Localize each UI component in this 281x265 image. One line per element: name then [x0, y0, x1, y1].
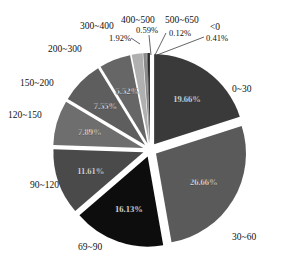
slice-percent-label: 11.61% [77, 166, 104, 176]
slice-category-label: 400~500 [121, 15, 155, 25]
slice-category-label: 0~30 [232, 84, 252, 94]
pie-chart: 19.66%0~3026.66%30~6016.13%69~9011.61%90… [0, 0, 281, 265]
leader-line [155, 33, 166, 55]
leader-line [131, 38, 140, 44]
slice-percent-label: 0.12% [169, 28, 191, 38]
pie-slices [53, 53, 246, 247]
slice-category-label: <0 [210, 22, 220, 32]
leader-line [149, 35, 151, 55]
slice-percent-label: 19.66% [173, 94, 201, 104]
slice-percent-label: 0.59% [136, 25, 158, 35]
slice-percent-label: 1.92% [109, 33, 131, 43]
slice-category-label: 200~300 [48, 44, 82, 54]
slice-category-label: 120~150 [8, 110, 42, 120]
slice-category-label: 30~60 [232, 232, 256, 242]
slice-percent-label: 0.41% [206, 33, 228, 43]
slice-percent-label: 16.13% [115, 204, 143, 214]
slice-category-label: 150~200 [20, 78, 54, 88]
slice-percent-label: 7.55% [94, 101, 117, 111]
slice-percent-label: 7.89% [78, 127, 101, 137]
slice-percent-label: 5.52% [116, 86, 139, 96]
slice-category-label: 300~400 [80, 21, 114, 31]
slice-category-label: 90~120 [30, 180, 59, 190]
slice-category-label: 69~90 [78, 242, 102, 252]
leader-line [157, 37, 204, 55]
slice-category-label: 500~650 [165, 15, 199, 25]
slice-percent-label: 26.66% [190, 177, 218, 187]
